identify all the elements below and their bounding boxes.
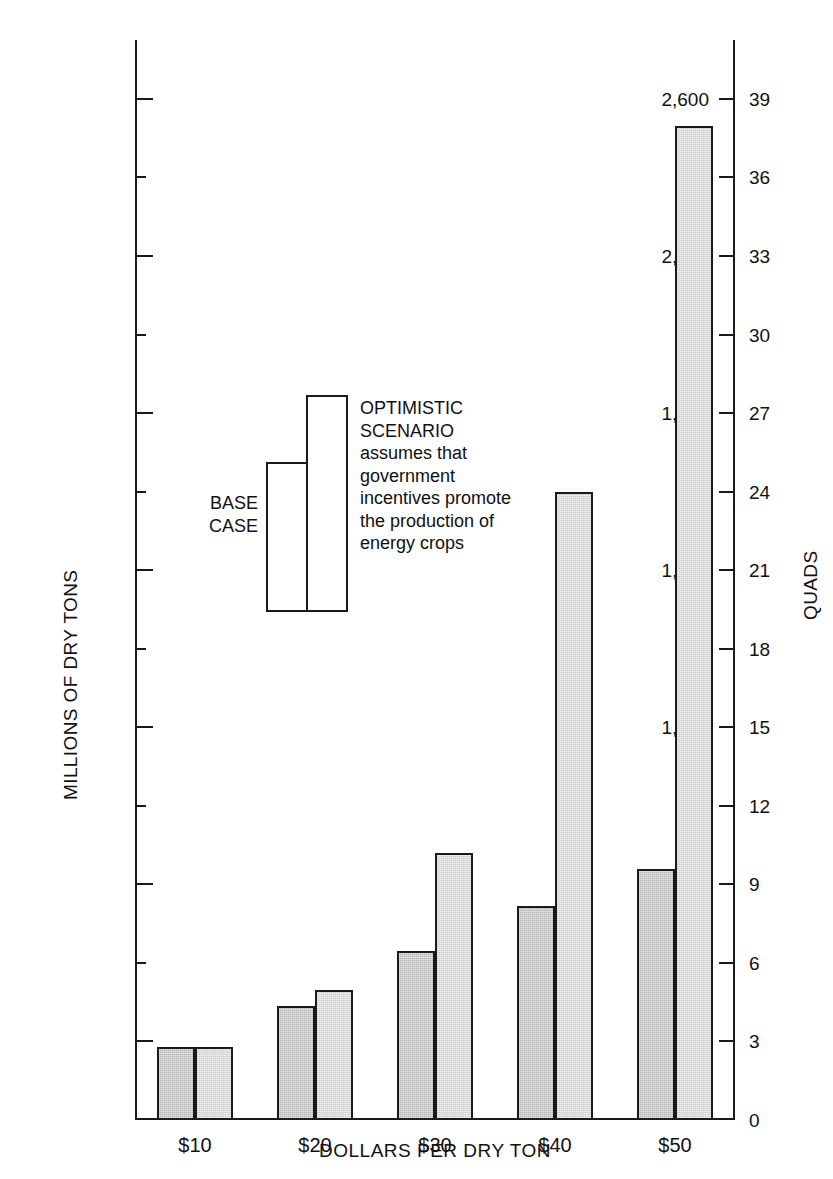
bar-optimistic-50 — [675, 126, 713, 1120]
left-tick-1400 — [137, 569, 153, 571]
right-tick-label-30: 30 — [749, 325, 770, 344]
chart-figure: 2006001,0001,4001,8002,2002,600 03691215… — [0, 0, 833, 1179]
left-tick-label-2600: 2,600 — [661, 89, 709, 108]
right-tick-label-0: 0 — [749, 1111, 760, 1130]
right-tick-33 — [719, 255, 735, 257]
bar-base-case-10 — [157, 1047, 195, 1120]
bar-optimistic-20 — [315, 990, 353, 1120]
left-axis-title: MILLIONS OF DRY TONS — [60, 570, 82, 800]
bar-base-case-20 — [277, 1006, 315, 1120]
right-tick-label-3: 3 — [749, 1032, 760, 1051]
x-axis-title: DOLLARS PER DRY TON — [319, 1140, 551, 1162]
left-tick-600 — [137, 883, 153, 885]
left-tick-400 — [137, 962, 146, 964]
bar-base-case-50 — [637, 869, 675, 1120]
category-label-10: $10 — [178, 1134, 211, 1157]
right-tick-label-21: 21 — [749, 561, 770, 580]
right-tick-label-39: 39 — [749, 89, 770, 108]
left-tick-200 — [137, 1040, 153, 1042]
right-tick-27 — [719, 412, 735, 414]
left-tick-1600 — [137, 491, 146, 493]
right-tick-3 — [719, 1040, 735, 1042]
left-tick-800 — [137, 805, 146, 807]
plot-area: 2006001,0001,4001,8002,2002,600 03691215… — [135, 40, 735, 1120]
left-tick-1200 — [137, 648, 146, 650]
right-tick-label-27: 27 — [749, 404, 770, 423]
legend-label-base-case: BASE CASE — [166, 492, 258, 537]
right-tick-label-12: 12 — [749, 796, 770, 815]
right-tick-label-6: 6 — [749, 953, 760, 972]
right-tick-15 — [719, 726, 735, 728]
right-tick-label-15: 15 — [749, 718, 770, 737]
left-tick-2600 — [137, 98, 153, 100]
right-tick-12 — [719, 805, 735, 807]
right-tick-39 — [719, 98, 735, 100]
left-tick-2400 — [137, 176, 146, 178]
left-tick-2000 — [137, 334, 146, 336]
right-tick-18 — [719, 648, 735, 650]
right-tick-30 — [719, 334, 735, 336]
right-tick-label-9: 9 — [749, 875, 760, 894]
right-tick-label-18: 18 — [749, 639, 770, 658]
legend-swatch-base-case — [266, 462, 308, 612]
category-label-50: $50 — [658, 1134, 691, 1157]
bar-base-case-30 — [397, 951, 435, 1120]
left-tick-2200 — [137, 255, 153, 257]
bar-optimistic-40 — [555, 492, 593, 1120]
right-tick-24 — [719, 491, 735, 493]
right-tick-36 — [719, 176, 735, 178]
right-tick-label-36: 36 — [749, 168, 770, 187]
left-axis-line — [135, 40, 137, 1120]
bar-optimistic-10 — [195, 1047, 233, 1120]
bar-optimistic-30 — [435, 853, 473, 1120]
right-tick-9 — [719, 883, 735, 885]
right-tick-6 — [719, 962, 735, 964]
right-tick-label-33: 33 — [749, 247, 770, 266]
right-axis-line — [733, 40, 735, 1120]
legend-swatch-optimistic-scenario — [306, 395, 348, 612]
bar-base-case-40 — [517, 906, 555, 1120]
left-tick-1800 — [137, 412, 153, 414]
right-axis-title: QUADS — [800, 550, 822, 620]
right-tick-label-24: 24 — [749, 482, 770, 501]
right-tick-21 — [719, 569, 735, 571]
left-tick-1000 — [137, 726, 153, 728]
